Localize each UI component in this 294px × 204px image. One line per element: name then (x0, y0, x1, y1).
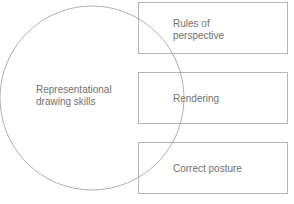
circle-label: Representational drawing skills (36, 84, 112, 108)
